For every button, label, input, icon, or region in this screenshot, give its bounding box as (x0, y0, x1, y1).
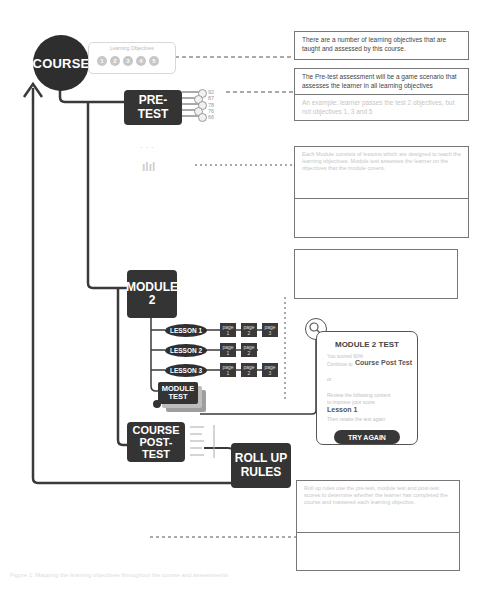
module-label: MODULE 2 (126, 281, 178, 307)
course-post-test-node: COURSE POST-TEST (127, 422, 185, 462)
lesson-label: LESSON 3 (170, 367, 202, 374)
note-pretest: The Pre-test assessment will be a game s… (294, 68, 469, 121)
pretest-scores: 92 87 78 76 66 (208, 89, 214, 120)
note-blank (297, 532, 459, 575)
module-test-node: MODULE TEST (158, 382, 198, 404)
lesson-1: LESSON 1 (165, 324, 207, 337)
page-box: page1 (220, 363, 236, 377)
card-title: MODULE 2 TEST (317, 340, 417, 349)
lesson-label: LESSON 2 (170, 347, 202, 354)
score-value: 78 (208, 102, 214, 108)
note-blank (295, 198, 468, 241)
module-to-posttest-line (118, 288, 127, 445)
objectives-label: Learning Objectives (89, 45, 175, 51)
objective-dot: 1 (97, 56, 107, 66)
page-box: page2 (241, 343, 257, 357)
try-again-button[interactable]: TRY AGAIN (334, 430, 400, 444)
note-module-2 (294, 249, 458, 299)
page-box: page2 (241, 363, 257, 377)
lesson-label: LESSON 1 (170, 327, 202, 334)
page-box: page3 (262, 363, 278, 377)
trunk-to-module-line (88, 102, 127, 288)
course-node: COURSE (33, 35, 89, 91)
page-box: page3 (262, 323, 278, 337)
card-text: or (327, 376, 331, 382)
page-box: page1 (220, 343, 236, 357)
note-objectives: There are a number of learning objective… (294, 31, 469, 60)
card-text: to improve your score (327, 399, 375, 405)
module-test-label: MODULE TEST (158, 385, 198, 402)
page-box: page2 (241, 323, 257, 337)
learning-objectives-pill: Learning Objectives 1 2 3 4 5 (88, 42, 176, 74)
lesson-2: LESSON 2 (165, 344, 207, 357)
course-to-pretest-line (60, 90, 124, 102)
objective-dot: 3 (123, 56, 133, 66)
pretest-node: PRE-TEST (124, 90, 182, 125)
figure-caption: Figure 1: Mapping the learning objective… (10, 572, 470, 578)
score-value: 87 (208, 95, 214, 101)
note-module: Each Module consists of lessons which ar… (294, 146, 469, 238)
lesson-3: LESSON 3 (165, 364, 207, 377)
note-example: An example: learner passes the test 2 ob… (295, 94, 468, 120)
page-box: page1 (220, 323, 236, 337)
objective-dot: 5 (149, 56, 159, 66)
faded-content: ılıl (142, 160, 155, 174)
objective-dot: 4 (136, 56, 146, 66)
module-to-lessons-line (151, 318, 160, 391)
card-text: Review the following content (327, 392, 390, 398)
post-test-link[interactable]: Course Post Test (355, 359, 412, 366)
post-test-label: COURSE POST-TEST (127, 424, 185, 460)
module-node: MODULE 2 (127, 270, 177, 318)
card-text: Then retake the test again (327, 416, 385, 422)
pretest-label: PRE-TEST (124, 94, 182, 120)
lesson-link[interactable]: Lesson 1 (327, 406, 357, 413)
score-knob-icon (198, 113, 207, 122)
roll-up-label: ROLL UP RULES (231, 452, 291, 478)
note-text: There are a number of learning objective… (295, 32, 468, 57)
note-text: The Pre-test assessment will be a game s… (295, 69, 468, 94)
roll-up-rules-node: ROLL UP RULES (231, 443, 291, 488)
note-rollup: Roll up rules use the pre-test, module t… (296, 480, 460, 571)
card-text: Continue to (327, 361, 353, 367)
score-value: 66 (208, 114, 214, 120)
note-text: Roll up rules use the pre-test, module t… (297, 481, 459, 532)
faded-content: · · · (140, 142, 154, 152)
objective-dot: 2 (110, 56, 120, 66)
module-test-result-card: MODULE 2 TEST You scored 60% Continue to… (316, 331, 418, 445)
note-text: Each Module consists of lessons which ar… (295, 147, 468, 198)
course-label: COURSE (33, 56, 90, 71)
